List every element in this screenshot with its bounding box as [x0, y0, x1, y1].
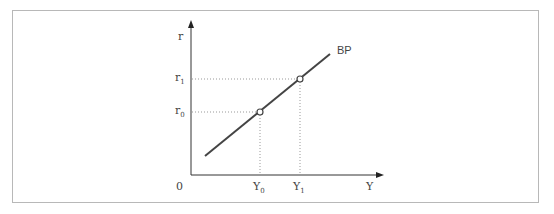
- tick-y0: Y0: [253, 180, 265, 195]
- x-axis-label: Y: [366, 180, 373, 193]
- point-r1-y1: [297, 76, 303, 82]
- bp-diagram: [0, 0, 554, 214]
- tick-y1: Y1: [293, 180, 305, 195]
- point-r0-y0: [257, 109, 263, 115]
- origin-label: 0: [176, 180, 183, 193]
- tick-r0: r0: [175, 104, 185, 119]
- tick-r1: r1: [175, 71, 185, 86]
- bp-curve: [205, 54, 330, 156]
- y-axis-label: r: [178, 30, 183, 43]
- bp-curve-label: BP: [337, 44, 352, 56]
